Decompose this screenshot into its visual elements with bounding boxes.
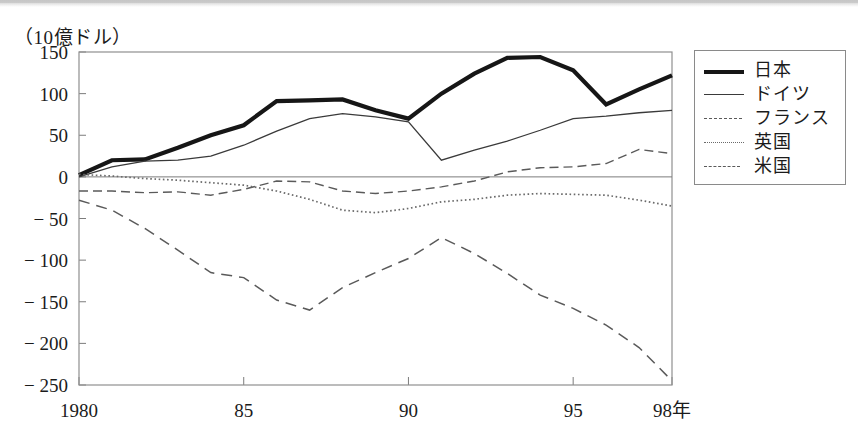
series-line-日本: [79, 57, 672, 175]
legend-sample-usa-icon: [704, 159, 744, 173]
chart-page: （10億ドル） 150100500− 50− 100− 150− 200− 25…: [0, 0, 858, 439]
y-tick-label: − 100: [24, 250, 68, 271]
series-line-フランス: [79, 149, 672, 195]
y-tick-label: 100: [40, 84, 69, 105]
x-tick-label: 85: [234, 400, 253, 421]
y-tick-label: − 200: [24, 333, 68, 354]
legend-label-germany: ドイツ: [754, 85, 811, 103]
legend-item-france: フランス: [695, 106, 845, 130]
legend-sample-japan-icon: [704, 63, 744, 77]
x-tick-label: 90: [399, 400, 418, 421]
y-tick-label: 50: [49, 125, 68, 146]
legend-label-japan: 日本: [754, 61, 792, 79]
legend-item-japan: 日本: [695, 58, 845, 82]
y-tick-label: − 50: [34, 209, 68, 230]
legend-sample-france-icon: [704, 111, 744, 125]
legend-item-usa: 米国: [695, 154, 845, 178]
legend-item-germany: ドイツ: [695, 82, 845, 106]
legend-label-usa: 米国: [754, 157, 792, 175]
legend-sample-germany-icon: [704, 87, 744, 101]
y-tick-label: − 150: [24, 292, 68, 313]
y-tick-label: 150: [40, 42, 69, 63]
x-tick-label: 95: [564, 400, 583, 421]
series-line-ドイツ: [79, 110, 672, 177]
legend-item-uk: 英国: [695, 130, 845, 154]
legend-label-france: フランス: [754, 109, 830, 127]
legend: 日本 ドイツ フランス 英国 米国: [694, 50, 846, 185]
legend-sample-uk-icon: [704, 135, 744, 149]
y-tick-label: 0: [59, 167, 69, 188]
series-line-米国: [79, 200, 672, 381]
legend-label-uk: 英国: [754, 133, 792, 151]
x-tick-label: 98年: [653, 400, 691, 421]
plot-border: [79, 52, 672, 385]
y-tick-label: − 250: [24, 375, 68, 396]
plot-frame: [79, 52, 672, 385]
x-tick-label: 1980: [60, 400, 98, 421]
x-axis-tick-group: 198085909598年: [60, 377, 691, 421]
y-axis-tick-group: 150100500− 50− 100− 150− 200− 250: [24, 42, 86, 396]
series-line-group: [79, 57, 672, 381]
